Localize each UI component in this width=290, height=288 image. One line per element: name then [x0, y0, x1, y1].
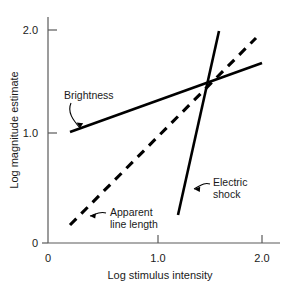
magnitude-estimate-chart: 2.0 1.0 0 0 1.0 2.0 Log stimulus intensi… — [0, 0, 290, 288]
y-tick-label-0: 0 — [32, 237, 38, 249]
chart-background — [0, 0, 290, 288]
x-tick-label-2: 2.0 — [254, 252, 269, 264]
y-tick-label-2: 2.0 — [23, 24, 38, 36]
y-axis-title: Log magnitude estimate — [8, 71, 20, 188]
annotation-electric-label-line2: shock — [213, 188, 241, 200]
annotation-electric-label-line1: Electric — [213, 176, 247, 188]
x-tick-label-1: 1.0 — [150, 252, 165, 264]
annotation-apparent-label-line2: line length — [110, 218, 158, 230]
annotation-brightness-label: Brightness — [64, 89, 114, 101]
annotation-apparent-label-line1: Apparent — [110, 206, 153, 218]
x-tick-label-0: 0 — [45, 252, 51, 264]
chart-figure: 2.0 1.0 0 0 1.0 2.0 Log stimulus intensi… — [0, 0, 290, 288]
x-axis-title: Log stimulus intensity — [107, 269, 213, 281]
y-tick-label-1: 1.0 — [23, 127, 38, 139]
